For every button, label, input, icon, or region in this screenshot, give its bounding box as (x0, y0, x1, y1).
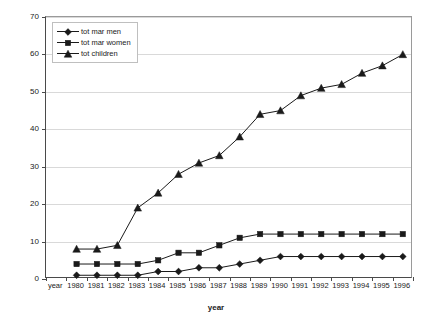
data-point-marker (379, 62, 387, 69)
data-point-marker (73, 272, 80, 279)
data-point-marker (297, 92, 305, 99)
data-point-marker (176, 250, 181, 255)
data-point-marker (359, 253, 366, 260)
x-axis-tick-label: 1981 (88, 282, 105, 290)
legend-entry[interactable]: tot children (57, 48, 131, 59)
x-axis-tick-label: 1990 (271, 282, 288, 290)
x-axis-tick-label: 1994 (353, 282, 370, 290)
legend-marker-triangle-icon (57, 48, 79, 59)
data-point-marker (297, 253, 304, 260)
data-point-marker (257, 231, 262, 236)
data-point-marker (318, 253, 325, 260)
data-point-marker (358, 69, 366, 76)
y-axis-tick-label: 0 (35, 275, 39, 283)
x-axis-tick-label: 1989 (251, 282, 268, 290)
data-point-marker (94, 272, 101, 279)
data-point-marker (399, 51, 407, 58)
data-point-marker (155, 258, 160, 263)
y-axis-tick-label: 60 (30, 50, 39, 58)
data-point-marker (338, 81, 346, 88)
data-point-marker (237, 235, 242, 240)
data-point-marker (319, 231, 324, 236)
x-axis-tick-label: 1995 (373, 282, 390, 290)
x-axis-tick-label: 1987 (210, 282, 227, 290)
x-axis-tick-label: 1985 (169, 282, 186, 290)
data-point-marker (338, 253, 345, 260)
data-point-marker (94, 261, 99, 266)
x-axis-tick-label: 1980 (67, 282, 84, 290)
x-axis-tick-label: 1992 (312, 282, 329, 290)
data-point-marker (115, 261, 120, 266)
y-axis-tick-label: 70 (30, 13, 39, 21)
series-tot-children (73, 51, 407, 253)
data-point-marker (175, 170, 183, 177)
line-chart: number of individuals 010203040506070 ye… (0, 0, 432, 324)
data-point-marker (195, 159, 203, 166)
legend-marker-diamond-icon (57, 26, 79, 37)
x-axis-title: year (0, 303, 432, 312)
data-point-marker (134, 272, 141, 279)
data-point-marker (277, 253, 284, 260)
data-point-marker (278, 231, 283, 236)
data-point-marker (216, 264, 223, 271)
data-point-marker (74, 261, 79, 266)
series-line (77, 54, 403, 249)
y-axis-tick-label: 20 (30, 200, 39, 208)
x-axis-tick-label: year (48, 282, 63, 290)
data-point-marker (298, 231, 303, 236)
data-point-marker (155, 268, 162, 275)
x-axis-tick-label: 1988 (230, 282, 247, 290)
data-point-marker (277, 107, 285, 114)
legend-label: tot mar men (79, 27, 121, 36)
y-axis-tick-label: 10 (30, 238, 39, 246)
data-point-marker (134, 204, 142, 211)
x-axis-tick-label: 1984 (149, 282, 166, 290)
legend-entry[interactable]: tot mar women (57, 37, 131, 48)
y-axis-tick-label: 50 (30, 88, 39, 96)
data-point-marker (359, 231, 364, 236)
legend-marker-square-icon (57, 37, 79, 48)
series-tot-mar-men (73, 253, 406, 279)
data-point-marker (135, 261, 140, 266)
x-axis-tick-label: 1982 (108, 282, 125, 290)
x-axis-tick-label: 1996 (393, 282, 410, 290)
data-point-marker (236, 261, 243, 268)
data-point-marker (196, 250, 201, 255)
legend-label: tot children (79, 49, 118, 58)
data-point-marker (196, 264, 203, 271)
data-point-marker (399, 253, 406, 260)
x-axis-tick-label: 1983 (128, 282, 145, 290)
x-axis-tick-label: 1993 (332, 282, 349, 290)
data-point-marker (175, 268, 182, 275)
data-point-marker (400, 231, 405, 236)
chart-legend: tot mar mentot mar womentot children (52, 22, 138, 63)
y-axis-tick-label: 30 (30, 163, 39, 171)
x-tick-mark (413, 277, 414, 281)
x-axis-tick-label: 1991 (292, 282, 309, 290)
data-point-marker (339, 231, 344, 236)
data-point-marker (257, 257, 264, 264)
data-point-marker (379, 253, 386, 260)
legend-entry[interactable]: tot mar men (57, 26, 131, 37)
data-point-marker (114, 242, 122, 249)
y-axis-tick-label: 40 (30, 125, 39, 133)
x-axis-tick-label: 1986 (190, 282, 207, 290)
data-point-marker (114, 272, 121, 279)
legend-label: tot mar women (79, 38, 131, 47)
data-point-marker (380, 231, 385, 236)
data-point-marker (217, 243, 222, 248)
